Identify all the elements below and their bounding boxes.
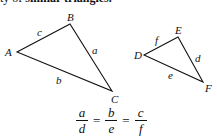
proportion-equation: a d = b e = c f (76, 106, 147, 135)
equals-sign: = (93, 113, 100, 129)
denominator: d (78, 122, 87, 135)
side-a-label: a (92, 45, 98, 56)
fraction-b-over-e: b e (105, 106, 117, 135)
side-f-label: f (155, 35, 158, 46)
vertex-f-label: F (205, 83, 212, 94)
side-b-label: b (56, 75, 62, 86)
fraction-a-over-d: a d (76, 106, 88, 135)
numerator: b (107, 106, 116, 119)
side-c-label: c (37, 27, 42, 38)
numerator: c (137, 106, 145, 119)
vertex-c-label: C (111, 94, 118, 105)
triangle-abc (17, 24, 112, 91)
vertex-b-label: B (67, 12, 74, 23)
denominator: e (107, 122, 115, 135)
vertex-a-label: A (5, 47, 12, 58)
side-e-label: e (168, 70, 173, 81)
side-d-label: d (195, 53, 201, 64)
equals-sign: = (122, 113, 129, 129)
vertex-e-label: E (175, 25, 182, 36)
numerator: a (78, 106, 87, 119)
fraction-c-over-f: c f (135, 106, 147, 135)
denominator: f (138, 122, 144, 135)
vertex-d-label: D (134, 50, 142, 61)
